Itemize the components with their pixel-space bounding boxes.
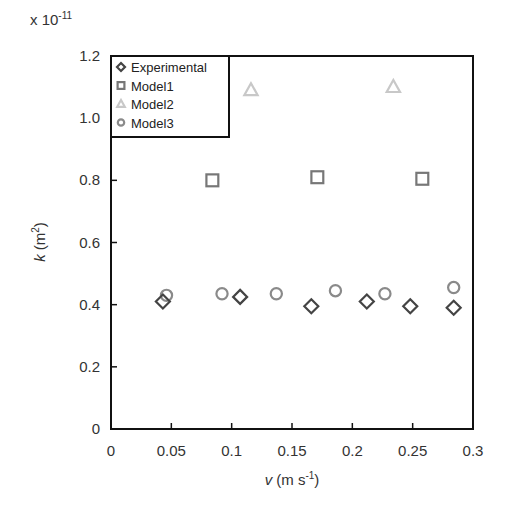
y-tick-label: 0.8 — [79, 171, 100, 188]
model1-point — [416, 173, 428, 185]
model3-point — [448, 282, 459, 293]
experimental-point — [233, 290, 247, 304]
model3-point — [330, 285, 341, 296]
experimental-point — [360, 295, 374, 309]
y-tick-label: 0.4 — [79, 296, 100, 313]
model2-point — [244, 83, 257, 95]
x-tick-label: 0.1 — [221, 442, 242, 459]
legend-label: Experimental — [131, 60, 207, 75]
model3-point — [271, 288, 282, 299]
legend-label: Model2 — [131, 97, 174, 112]
y-tick-label: 1.0 — [79, 109, 100, 126]
model3-point — [379, 288, 390, 299]
x-tick-label: 0.15 — [277, 442, 306, 459]
model2-point — [387, 80, 400, 92]
x-axis-label: v (m s-1) — [265, 470, 320, 488]
y-tick-label: 1.2 — [79, 47, 100, 64]
legend: ExperimentalModel1Model2Model3 — [111, 56, 229, 137]
model1-point — [206, 174, 218, 186]
model3-point — [216, 288, 227, 299]
x-tick-label: 0.25 — [398, 442, 427, 459]
x-tick-label: 0.3 — [463, 442, 484, 459]
scatter-chart: 00.050.10.150.20.250.3 00.20.40.60.81.01… — [0, 0, 515, 515]
x-tick-label: 0 — [107, 442, 115, 459]
legend-label: Model3 — [131, 116, 174, 131]
y-tick-label: 0.6 — [79, 234, 100, 251]
y-multiplier: x 10-11 — [30, 10, 73, 28]
model1-point — [311, 171, 323, 183]
experimental-point — [447, 301, 461, 315]
y-axis-label: k (m2) — [30, 222, 48, 262]
experimental-point — [304, 299, 318, 313]
x-tick-label: 0.05 — [157, 442, 186, 459]
y-tick-label: 0 — [92, 420, 100, 437]
y-tick-label: 0.2 — [79, 358, 100, 375]
legend-label: Model1 — [131, 79, 174, 94]
experimental-point — [403, 299, 417, 313]
x-tick-label: 0.2 — [342, 442, 363, 459]
